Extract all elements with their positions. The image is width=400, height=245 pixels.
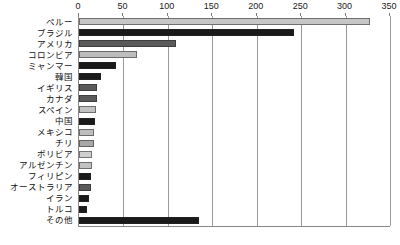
bar xyxy=(79,206,87,213)
category-label: ミャンマー xyxy=(28,61,73,70)
x-tick-label-50: 50 xyxy=(117,1,127,11)
category-label: その他 xyxy=(46,216,73,225)
bar xyxy=(79,18,370,25)
category-label: カナダ xyxy=(46,94,73,103)
bar xyxy=(79,106,96,113)
category-label: フィリピン xyxy=(28,172,73,181)
bar xyxy=(79,62,116,69)
x-tick-label-250: 250 xyxy=(293,1,308,11)
category-label: 中国 xyxy=(55,117,73,126)
category-label: イギリス xyxy=(37,83,73,92)
bar xyxy=(79,140,94,147)
bar xyxy=(79,40,176,47)
bar xyxy=(79,184,91,191)
bar xyxy=(79,217,199,224)
bar xyxy=(79,173,91,180)
bar xyxy=(79,151,92,158)
plot-area xyxy=(78,16,390,227)
category-label: スペイン xyxy=(38,105,73,114)
category-label: ブラジル xyxy=(37,28,73,37)
category-label: メキシコ xyxy=(37,128,73,137)
bars-layer xyxy=(79,16,390,226)
bar xyxy=(79,118,95,125)
category-label: オーストラリア xyxy=(10,183,73,192)
category-label: ボリビア xyxy=(37,150,73,159)
bar xyxy=(79,129,94,136)
category-label: ペルー xyxy=(46,17,73,26)
bar xyxy=(79,162,92,169)
x-tick-label-150: 150 xyxy=(204,1,219,11)
x-tick-label-200: 200 xyxy=(248,1,263,11)
bar xyxy=(79,73,101,80)
bar xyxy=(79,51,137,58)
bar xyxy=(79,29,294,36)
category-label: アルゼンチン xyxy=(19,161,73,170)
category-label: チリ xyxy=(55,139,73,148)
x-tick-label-100: 100 xyxy=(159,1,174,11)
gridline-350 xyxy=(390,16,391,226)
y-axis-category-labels: ペルーブラジルアメリカコロンビアミャンマー韓国イギリスカナダスペイン中国メキシコ… xyxy=(0,16,76,226)
horizontal-bar-chart: 050100150200250300350 ペルーブラジルアメリカコロンビアミャ… xyxy=(0,0,400,245)
bar xyxy=(79,95,97,102)
category-label: アメリカ xyxy=(37,39,73,48)
category-label: イラン xyxy=(46,194,73,203)
category-label: コロンビア xyxy=(28,50,73,59)
category-label: トルコ xyxy=(46,205,73,214)
x-tick-label-0: 0 xyxy=(75,1,80,11)
bar xyxy=(79,195,89,202)
x-tick-label-300: 300 xyxy=(337,1,352,11)
bar xyxy=(79,84,97,91)
x-tick-label-350: 350 xyxy=(381,1,396,11)
category-label: 韓国 xyxy=(55,72,73,81)
